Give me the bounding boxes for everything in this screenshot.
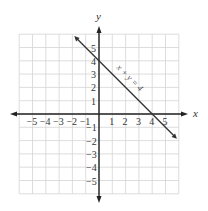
coordinate-plane: −5−4−3−2−11234554321−1−2−3−4−5 x y x + y… bbox=[0, 0, 208, 211]
svg-text:−4: −4 bbox=[86, 162, 97, 173]
svg-text:1: 1 bbox=[109, 116, 114, 127]
svg-text:−1: −1 bbox=[86, 122, 97, 133]
axes bbox=[10, 26, 188, 203]
svg-text:−5: −5 bbox=[27, 116, 38, 127]
svg-text:3: 3 bbox=[136, 116, 141, 127]
svg-text:−4: −4 bbox=[40, 116, 51, 127]
svg-text:−3: −3 bbox=[53, 116, 64, 127]
svg-text:5: 5 bbox=[91, 43, 96, 54]
svg-text:2: 2 bbox=[123, 116, 128, 127]
svg-text:1: 1 bbox=[91, 96, 96, 107]
svg-text:3: 3 bbox=[91, 69, 96, 80]
svg-text:4: 4 bbox=[149, 116, 154, 127]
svg-text:−3: −3 bbox=[86, 149, 97, 160]
y-axis-label: y bbox=[95, 10, 101, 22]
svg-text:−2: −2 bbox=[86, 136, 97, 147]
x-axis-label: x bbox=[192, 107, 198, 119]
svg-text:2: 2 bbox=[91, 82, 96, 93]
equation-label: x + y = 4 bbox=[114, 62, 146, 94]
svg-text:−2: −2 bbox=[66, 116, 77, 127]
svg-text:−5: −5 bbox=[86, 176, 97, 187]
chart-root: −5−4−3−2−11234554321−1−2−3−4−5 x y x + y… bbox=[0, 0, 208, 211]
